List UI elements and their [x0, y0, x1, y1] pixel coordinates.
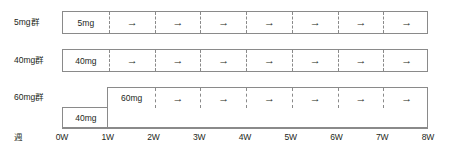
- dosing-bar-5mg: 5mg→→→→→→→: [62, 11, 428, 34]
- week-cell: →: [383, 88, 429, 108]
- dosing-schedule-diagram: 5mg群 5mg→→→→→→→ 40mg群 40mg→→→→→→→ 60mg群 …: [0, 0, 464, 149]
- week-cell: →: [383, 12, 429, 33]
- week-cell: →: [109, 12, 155, 33]
- dose-label: 40mg: [75, 113, 96, 123]
- axis-tick-2w: 2W: [140, 132, 168, 142]
- dosing-bar-60mg-maintenance: 60mg→→→→→→: [107, 87, 428, 128]
- group-label-5mg: 5mg群: [14, 17, 60, 27]
- continuation-arrow-icon: →: [218, 17, 229, 28]
- week-cell: →: [292, 50, 338, 71]
- time-axis-line: [62, 128, 428, 129]
- axis-tick-0w: 0W: [48, 132, 76, 142]
- continuation-arrow-icon: →: [264, 93, 275, 104]
- axis-tick-5w: 5W: [277, 132, 305, 142]
- continuation-arrow-icon: →: [401, 55, 412, 66]
- continuation-arrow-icon: →: [401, 93, 412, 104]
- week-cell: →: [338, 12, 384, 33]
- week-cell: 40mg: [63, 50, 109, 71]
- dosing-bar-40mg: 40mg→→→→→→→: [62, 49, 428, 72]
- continuation-arrow-icon: →: [401, 17, 412, 28]
- axis-tick-3w: 3W: [185, 132, 213, 142]
- dose-label: 60mg: [121, 93, 142, 103]
- continuation-arrow-icon: →: [264, 55, 275, 66]
- continuation-arrow-icon: →: [172, 93, 183, 104]
- continuation-arrow-icon: →: [172, 17, 183, 28]
- dose-label: 5mg: [78, 18, 95, 28]
- week-cell: →: [292, 88, 338, 108]
- week-cell: 60mg: [109, 88, 155, 108]
- dose-label: 40mg: [75, 56, 96, 66]
- week-cell: →: [200, 88, 246, 108]
- week-cell: →: [338, 88, 384, 108]
- continuation-arrow-icon: →: [127, 17, 138, 28]
- continuation-arrow-icon: →: [310, 55, 321, 66]
- week-cell: →: [200, 12, 246, 33]
- continuation-arrow-icon: →: [218, 55, 229, 66]
- week-cell: →: [200, 50, 246, 71]
- axis-caption-week: 週: [14, 132, 23, 142]
- week-cell: →: [155, 50, 201, 71]
- continuation-arrow-icon: →: [310, 93, 321, 104]
- week-cell: →: [246, 50, 292, 71]
- group-label-40mg: 40mg群: [14, 55, 60, 65]
- axis-tick-6w: 6W: [323, 132, 351, 142]
- group-label-60mg: 60mg群: [14, 92, 60, 102]
- week-cell: →: [155, 12, 201, 33]
- week-cell: →: [246, 88, 292, 108]
- axis-tick-1w: 1W: [94, 132, 122, 142]
- axis-tick-4w: 4W: [231, 132, 259, 142]
- week-cell: →: [246, 12, 292, 33]
- continuation-arrow-icon: →: [218, 93, 229, 104]
- week-cell: →: [292, 12, 338, 33]
- week-cell: →: [383, 50, 429, 71]
- week-cell: 5mg: [63, 12, 109, 33]
- continuation-arrow-icon: →: [264, 17, 275, 28]
- continuation-arrow-icon: →: [310, 17, 321, 28]
- dosing-bar-60mg-runin-40mg: 40mg: [62, 107, 108, 128]
- axis-tick-8w: 8W: [414, 132, 442, 142]
- continuation-arrow-icon: →: [355, 55, 366, 66]
- week-cell: →: [109, 50, 155, 71]
- week-cell: →: [155, 88, 201, 108]
- week-cell: 40mg: [63, 108, 109, 127]
- week-cell: →: [338, 50, 384, 71]
- continuation-arrow-icon: →: [172, 55, 183, 66]
- continuation-arrow-icon: →: [127, 55, 138, 66]
- axis-tick-7w: 7W: [368, 132, 396, 142]
- continuation-arrow-icon: →: [355, 17, 366, 28]
- continuation-arrow-icon: →: [355, 93, 366, 104]
